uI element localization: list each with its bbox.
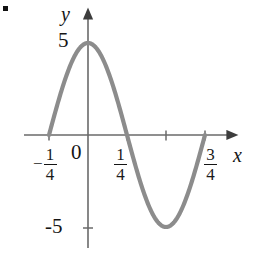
fraction-denominator: 4	[46, 166, 55, 183]
fraction-denominator: 4	[206, 166, 215, 183]
fraction-denominator: 4	[116, 166, 125, 183]
y-axis-label: y	[61, 4, 70, 24]
origin-label: 0	[71, 142, 82, 163]
x-tick-label-three-quarters: 3 4	[204, 146, 217, 184]
fraction-numerator: 3	[206, 146, 215, 163]
x-tick-label-minus-one-quarter: − 1 4	[33, 146, 57, 184]
figure-canvas: y x 0 5 -5 − 1 4 1 4 3 4	[0, 0, 259, 266]
fraction-numerator: 1	[116, 146, 125, 163]
minus-sign: −	[33, 154, 43, 176]
y-tick-label-5: 5	[58, 30, 69, 51]
fraction-numerator: 1	[46, 146, 55, 163]
coordinate-plot	[0, 0, 259, 266]
x-tick-label-one-quarter: 1 4	[114, 146, 127, 184]
x-axis-label: x	[233, 145, 242, 165]
y-tick-label-minus-5: -5	[45, 216, 63, 237]
